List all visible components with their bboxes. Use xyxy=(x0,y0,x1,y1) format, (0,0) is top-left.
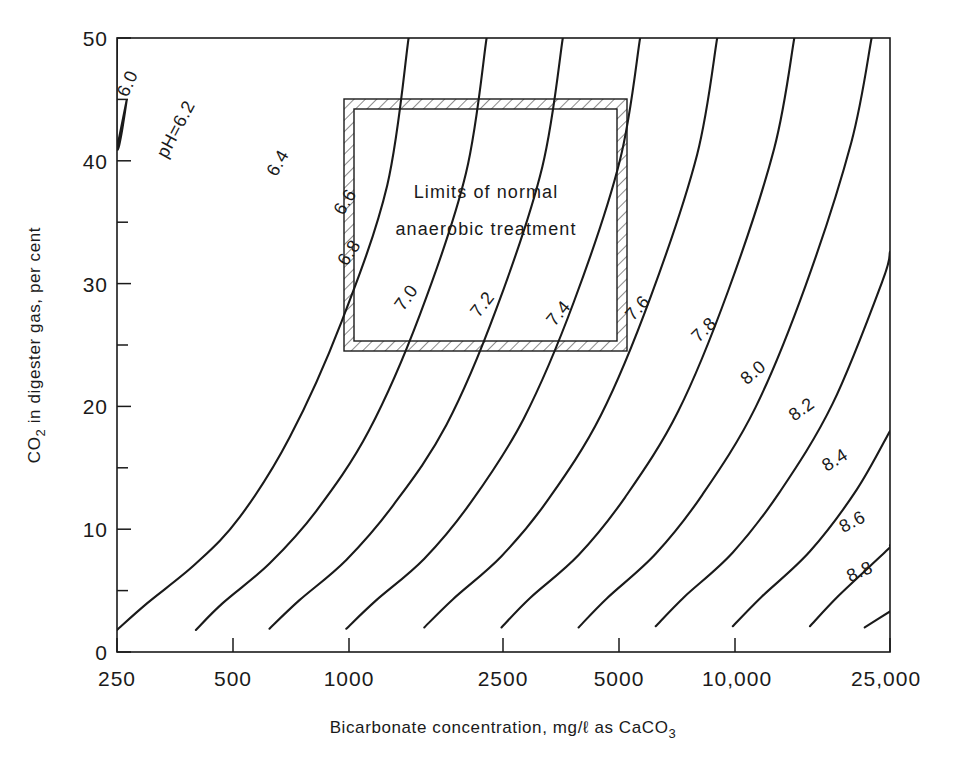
y-tick-label-40: 40 xyxy=(83,150,108,173)
ph-curve-68 xyxy=(346,38,640,629)
y-axis-label-main: CO xyxy=(25,436,44,463)
y-tick-label-0: 0 xyxy=(95,641,108,664)
ph-curve-66 xyxy=(270,38,563,629)
ph-curve-70 xyxy=(424,38,717,627)
ph-curve-78 xyxy=(733,431,890,626)
y-tick-label-30: 30 xyxy=(83,273,108,296)
ph-curve-labels: 6.0pH=6.26.46.66.87.07.27.47.67.88.08.28… xyxy=(113,67,876,586)
ph-curve-label-68: 6.8 xyxy=(333,236,364,269)
ph-curve-label-88: 8.8 xyxy=(843,557,875,586)
normal-limits-box-label-line1: Limits of normal xyxy=(414,182,559,202)
ph-curve-label-66: 6.6 xyxy=(329,185,360,218)
x-axis-label-subscript: 3 xyxy=(669,726,677,741)
x-axis-label-main: Bicarbonate concentration, mg/ℓ as CaCO xyxy=(330,718,669,737)
ph-curve-72 xyxy=(502,38,795,627)
y-axis-label-subscript: 2 xyxy=(33,429,48,437)
y-tick-label-50: 50 xyxy=(83,27,108,50)
ph-curve-group xyxy=(116,38,891,630)
ph-curve-label-82: 8.2 xyxy=(785,393,818,425)
y-tick-label-20: 20 xyxy=(83,395,108,418)
y-axis-tick-labels: 0 10 20 30 40 50 xyxy=(83,27,108,664)
x-tick-label-5000: 5000 xyxy=(594,667,645,690)
ph-curve-label-80: 8.0 xyxy=(737,356,770,388)
y-axis-label-rest: in digester gas, per cent xyxy=(25,227,44,429)
x-axis-tick-labels: 250 500 1000 2500 5000 10,000 25,000 xyxy=(98,667,921,690)
chart-figure: 0 10 20 30 40 50 250 500 1000 2500 5000 … xyxy=(0,0,956,758)
ph-nomograph-svg: 0 10 20 30 40 50 250 500 1000 2500 5000 … xyxy=(0,0,956,758)
ph-curve-label-74: 7.4 xyxy=(542,297,574,330)
normal-limits-box-label-line2: anaerobic treatment xyxy=(396,219,577,239)
ph-curve-64 xyxy=(196,38,487,630)
x-tick-label-1000: 1000 xyxy=(324,667,375,690)
normal-limits-box-label: Limits of normal anaerobic treatment xyxy=(396,182,577,239)
ph-curve-label-78: 7.8 xyxy=(687,313,720,346)
x-tick-label-10000: 10,000 xyxy=(702,667,772,690)
x-tick-label-25000: 25,000 xyxy=(851,667,921,690)
ph-curve-label-84: 8.4 xyxy=(818,444,851,475)
x-axis-ticks xyxy=(117,638,890,652)
y-tick-label-10: 10 xyxy=(83,518,108,541)
x-tick-label-500: 500 xyxy=(214,667,252,690)
ph-curve-label-64: 6.4 xyxy=(263,147,294,180)
y-axis-ticks xyxy=(117,38,131,652)
ph-curve-label-pH62: pH=6.2 xyxy=(152,97,199,161)
ph-curve-82 xyxy=(865,612,890,628)
ph-curve-label-70: 7.0 xyxy=(390,281,422,314)
x-axis-label: Bicarbonate concentration, mg/ℓ as CaCO3 xyxy=(330,718,677,741)
x-tick-label-250: 250 xyxy=(98,667,136,690)
y-axis-label: CO2 in digester gas, per cent xyxy=(25,227,48,463)
x-tick-label-2500: 2500 xyxy=(478,667,529,690)
